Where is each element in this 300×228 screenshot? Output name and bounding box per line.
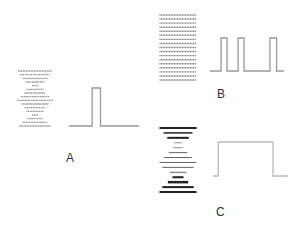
panel-a: A — [17, 71, 139, 165]
panel-label-b: B — [217, 87, 225, 101]
panel-b: B — [160, 15, 285, 101]
panel-c: C — [160, 128, 289, 219]
line-stack-a — [17, 71, 53, 126]
line-stack-c — [160, 128, 197, 192]
waveform-b — [210, 38, 284, 71]
panel-label-c: C — [216, 205, 225, 219]
figure-canvas: A B C — [0, 0, 300, 228]
waveform-c — [213, 142, 288, 176]
line-stack-b — [160, 15, 197, 80]
panel-label-a: A — [66, 151, 74, 165]
waveform-a — [69, 88, 139, 126]
